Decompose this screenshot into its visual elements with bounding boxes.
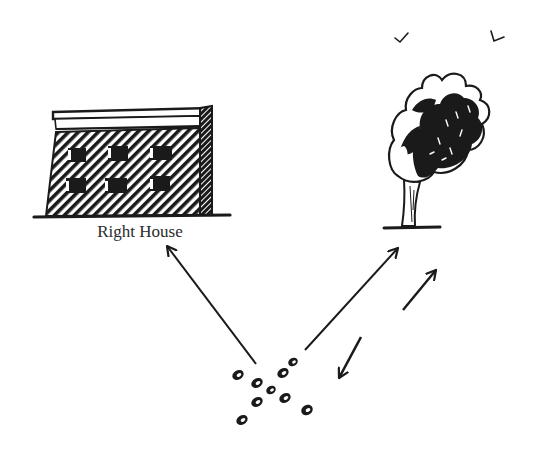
dot	[287, 356, 300, 368]
arrow-down-left-icon	[339, 337, 361, 378]
dot	[235, 413, 250, 427]
dot	[250, 395, 265, 409]
dot	[231, 368, 246, 382]
dot	[276, 366, 291, 380]
diagram-canvas: Right House	[0, 0, 535, 450]
building-label: Right House	[70, 222, 210, 242]
dot	[278, 391, 293, 405]
dot-cluster-icon	[231, 356, 315, 427]
building-icon	[34, 106, 230, 217]
dot	[250, 376, 265, 390]
dot	[299, 403, 314, 418]
building-label-holder: Right House	[70, 222, 210, 248]
windblown-tree-icon	[384, 74, 489, 228]
bird-icon	[395, 33, 408, 42]
arrow-up-right-icon	[403, 270, 436, 310]
arrow-to-tree	[305, 248, 398, 350]
arrow-to-building	[167, 246, 256, 364]
bird-icon	[491, 31, 504, 41]
dot	[265, 384, 278, 396]
